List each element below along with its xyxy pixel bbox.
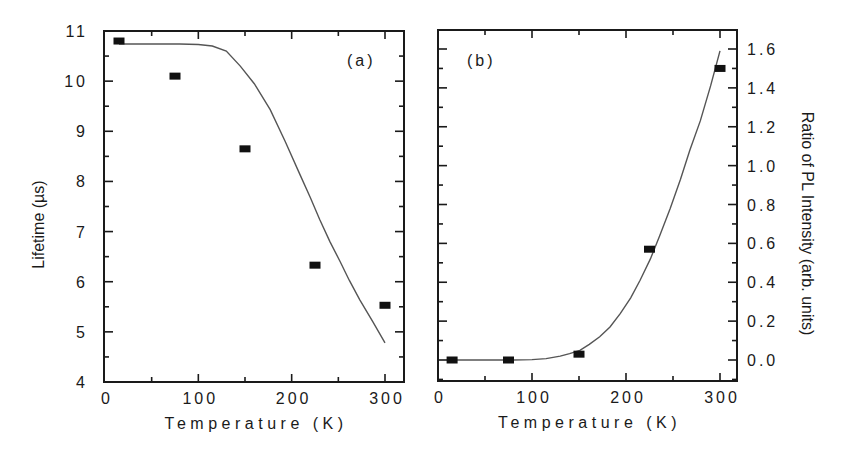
y-tick-label: 0.8 <box>747 197 778 214</box>
y-tick-label: 0.6 <box>747 235 778 252</box>
x-tick-label: 200 <box>276 390 312 407</box>
y-tick-label: 11 <box>65 23 88 40</box>
data-point-marker <box>380 302 391 309</box>
data-point-marker <box>447 357 458 364</box>
y-axis-title: Ratio of PL Intensity (arb. units) <box>799 112 816 336</box>
y-tick-label: 8 <box>76 173 88 190</box>
panel-label: (a) <box>347 52 376 69</box>
panel-a-lifetime: 0100200300Temperature (K)4567891011Lifet… <box>30 23 405 432</box>
data-point-marker <box>503 357 514 364</box>
data-point-marker <box>170 73 181 80</box>
fit-curve <box>452 51 720 360</box>
y-tick-label: 1.2 <box>747 119 778 136</box>
y-tick-label: 1.4 <box>747 80 778 97</box>
x-axis-title: Temperature (K) <box>164 415 347 432</box>
fit-curve <box>119 44 385 343</box>
x-tick-label: 100 <box>516 389 552 406</box>
y-tick-label: 10 <box>64 73 88 90</box>
y-tick-label: 0.0 <box>747 352 778 369</box>
data-point-marker <box>574 351 585 358</box>
y-tick-label: 0.4 <box>747 274 778 291</box>
figure: 0100200300Temperature (K)4567891011Lifet… <box>0 0 852 452</box>
y-tick-label: 7 <box>76 224 88 241</box>
data-point-marker <box>114 38 125 45</box>
data-point-marker <box>644 246 655 253</box>
y-tick-label: 1.6 <box>747 41 778 58</box>
x-tick-label: 0 <box>101 390 113 407</box>
y-tick-label: 0.2 <box>747 313 778 330</box>
data-point-marker <box>310 262 321 269</box>
x-tick-label: 200 <box>610 389 646 406</box>
x-tick-label: 100 <box>182 390 218 407</box>
y-tick-label: 4 <box>76 374 88 391</box>
data-point-marker <box>715 65 726 72</box>
y-axis-title: Lifetime (µs) <box>30 180 47 268</box>
y-tick-label: 1.0 <box>747 158 778 175</box>
y-tick-label: 6 <box>76 274 88 291</box>
data-point-marker <box>240 145 251 152</box>
x-tick-label: 300 <box>704 389 740 406</box>
panel-label: (b) <box>467 52 496 69</box>
plot-frame <box>438 30 737 381</box>
x-tick-label: 0 <box>434 389 446 406</box>
chart-canvas: 0100200300Temperature (K)4567891011Lifet… <box>0 0 852 452</box>
x-axis-title: Temperature (K) <box>498 414 681 431</box>
y-tick-label: 5 <box>76 324 88 341</box>
x-tick-label: 300 <box>369 390 405 407</box>
y-tick-label: 9 <box>76 123 88 140</box>
panel-b-pl-ratio: 0100200300Temperature (K)0.00.20.40.60.8… <box>434 30 816 431</box>
